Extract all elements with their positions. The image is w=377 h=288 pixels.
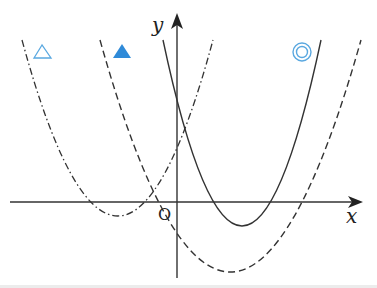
- solid-parabola: [163, 40, 321, 226]
- triangle-filled-icon: [113, 44, 131, 58]
- triangle-outline-icon: [34, 45, 51, 58]
- double-circle-icon: [293, 43, 311, 61]
- y-axis-label: y: [151, 13, 164, 37]
- parabola-diagram: y x O: [0, 0, 377, 288]
- x-axis-label: x: [346, 204, 357, 228]
- dashed-parabola: [100, 40, 361, 272]
- origin-label: O: [158, 205, 171, 224]
